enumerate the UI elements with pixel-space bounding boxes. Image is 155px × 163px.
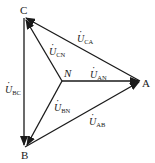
node-n-label: N [64,68,71,79]
subscript-bc: BC [12,89,21,96]
subscript-ab: AB [96,121,105,128]
label-u-ab: UAB [89,117,105,129]
u-symbol: U [77,33,84,44]
label-u-cn: UCN [49,47,65,59]
subscript-ca: CA [84,38,93,45]
node-b-label: B [21,150,28,161]
phasor-lines [0,0,155,163]
subscript-an: AN [97,74,106,81]
label-u-bn: UBN [54,103,70,115]
label-u-ca: UCA [77,34,93,46]
subscript-bn: BN [61,107,70,114]
label-u-an: UAN [90,70,107,82]
node-a-label: A [142,78,150,89]
u-symbol: U [5,84,12,95]
u-symbol: U [89,116,96,127]
u-symbol: U [90,69,97,80]
phasor-diagram: C A B N UCA UCN UAN UBC UBN UAB [0,0,155,163]
node-c-label: C [20,5,27,16]
u-symbol: U [54,102,61,113]
label-u-bc: UBC [5,85,21,97]
vector-u-ab [25,82,139,147]
subscript-cn: CN [56,51,65,58]
u-symbol: U [49,46,56,57]
